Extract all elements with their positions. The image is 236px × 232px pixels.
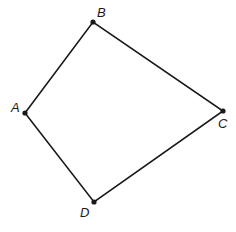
quadrilateral-diagram: ABCD <box>0 0 236 232</box>
vertex-label-a: A <box>10 100 20 115</box>
vertex-point-c <box>220 108 225 113</box>
vertex-label-d: D <box>80 205 89 220</box>
vertex-label-b: B <box>97 5 106 20</box>
quadrilateral-abcd <box>25 22 223 202</box>
vertex-point-b <box>90 19 95 24</box>
vertex-label-c: C <box>218 116 228 131</box>
vertex-point-a <box>22 110 27 115</box>
vertex-point-d <box>91 199 96 204</box>
